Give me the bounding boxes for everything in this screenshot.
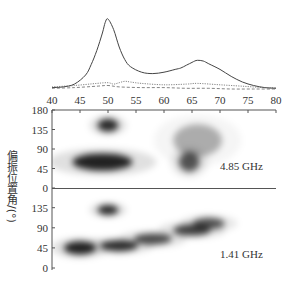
x-tick-label: 65 [187, 94, 199, 106]
y-tick-label: 90 [37, 222, 49, 234]
y-tick-label: 135 [32, 124, 49, 136]
y-axis-tick-labels: 1801359045013590450 [32, 104, 49, 274]
y-tick-label: 0 [43, 262, 49, 274]
y-tick-label: 45 [37, 163, 49, 175]
x-tick-label: 60 [159, 94, 171, 106]
x-tick-label: 40 [47, 94, 59, 106]
x-tick-label: 45 [75, 94, 87, 106]
x-tick-label: 50 [103, 94, 115, 106]
x-tick-label: 80 [271, 94, 283, 106]
y-tick-label: 180 [32, 104, 49, 116]
pa-heatmap-1.41ghz [51, 202, 237, 259]
profile-panel [52, 19, 276, 89]
total-intensity-curve [52, 19, 276, 89]
circular-polarization-curve [52, 85, 276, 89]
x-axis-tick-labels: 404550556065707580 [47, 94, 283, 106]
x-tick-label: 75 [243, 94, 255, 106]
y-tick-label: 0 [43, 182, 49, 194]
frequency-label-upper: 4.85 GHz [220, 160, 263, 172]
frequency-label-lower: 1.41 GHz [220, 248, 263, 260]
x-tick-label: 70 [215, 94, 227, 106]
figure: 404550556065707580 1801359045013590450 4… [0, 0, 288, 283]
x-tick-label: 55 [131, 94, 143, 106]
y-tick-label: 90 [37, 143, 49, 155]
y-tick-label: 135 [32, 202, 49, 214]
y-axis-label: 偏振位置角/(°) [3, 150, 17, 223]
pa-heatmap-4.85ghz [48, 114, 241, 177]
y-tick-label: 45 [37, 242, 49, 254]
